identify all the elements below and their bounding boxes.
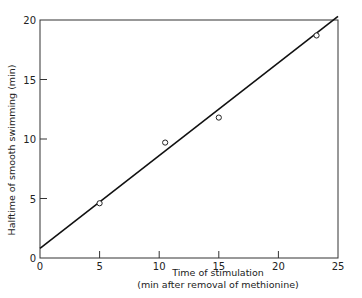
x-axis-sublabel: (min after removal of methionine) [137, 279, 299, 290]
x-axis-label: Time of stimulation [171, 267, 264, 278]
y-tick-label: 15 [23, 75, 36, 86]
data-point-marker [163, 140, 168, 145]
data-points [97, 33, 319, 206]
y-axis-label: Halftime of smooth swimming (min) [6, 65, 17, 236]
x-tick-label: 25 [332, 261, 345, 272]
chart: 0510152025 05101520 Time of stimulation … [0, 0, 362, 298]
x-tick-label: 0 [37, 261, 43, 272]
data-point-marker [314, 33, 319, 38]
y-tick-label: 20 [23, 15, 36, 26]
x-tick-label: 5 [96, 261, 102, 272]
data-point-marker [97, 201, 102, 206]
x-tick-label: 10 [153, 261, 166, 272]
fit-line [40, 16, 338, 248]
y-axis-ticks: 05101520 [23, 15, 47, 264]
data-point-marker [216, 115, 221, 120]
y-tick-label: 5 [30, 194, 36, 205]
plot-frame [40, 20, 338, 258]
x-tick-label: 20 [272, 261, 285, 272]
y-tick-label: 0 [30, 253, 36, 264]
y-tick-label: 10 [23, 134, 36, 145]
